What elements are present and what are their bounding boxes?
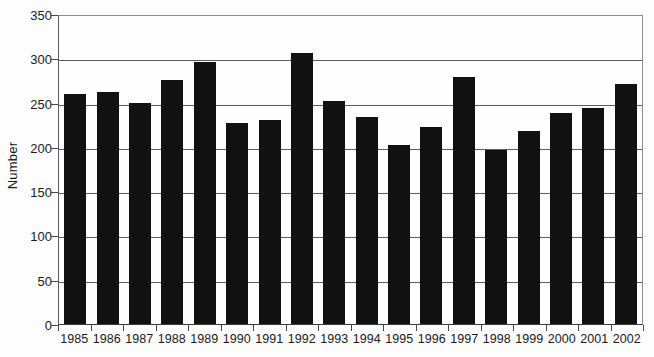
y-tick-mark xyxy=(51,236,58,237)
x-axis-tick-marks xyxy=(58,325,643,331)
x-tick-mark xyxy=(448,325,449,331)
x-tick-mark xyxy=(188,325,189,331)
bar-2000[interactable] xyxy=(550,113,572,324)
bar-1996[interactable] xyxy=(420,127,442,325)
bar-slot xyxy=(221,16,253,324)
bar-1985[interactable] xyxy=(64,94,86,324)
bar-slot xyxy=(415,16,447,324)
y-tick-mark xyxy=(51,192,58,193)
bar-slot xyxy=(545,16,577,324)
bar-1998[interactable] xyxy=(485,150,507,324)
x-tick-mark xyxy=(253,325,254,331)
x-tick-label: 2000 xyxy=(546,332,579,354)
bar-1986[interactable] xyxy=(97,92,119,324)
bar-slot xyxy=(91,16,123,324)
x-tick-mark xyxy=(383,325,384,331)
bar-slot xyxy=(383,16,415,324)
plot-area xyxy=(58,15,643,325)
x-tick-mark xyxy=(91,325,92,331)
bar-slot xyxy=(59,16,91,324)
x-tick-label: 1989 xyxy=(188,332,221,354)
bar-slot xyxy=(253,16,285,324)
bar-slot xyxy=(156,16,188,324)
bar-1991[interactable] xyxy=(259,120,281,324)
bar-slot xyxy=(286,16,318,324)
x-tick-label: 1993 xyxy=(318,332,351,354)
x-tick-mark xyxy=(156,325,157,331)
y-axis-tick-labels: 050100150200250300350 xyxy=(0,0,52,357)
bar-1999[interactable] xyxy=(518,131,540,324)
x-tick-label: 1986 xyxy=(91,332,124,354)
y-tick-mark xyxy=(51,148,58,149)
x-tick-label: 1991 xyxy=(253,332,286,354)
x-tick-mark xyxy=(351,325,352,331)
x-tick-mark xyxy=(611,325,612,331)
x-tick-mark xyxy=(481,325,482,331)
y-tick-label: 250 xyxy=(8,96,52,111)
bar-slot xyxy=(124,16,156,324)
y-tick-mark xyxy=(51,281,58,282)
y-tick-label: 350 xyxy=(8,8,52,23)
bar-1997[interactable] xyxy=(453,77,475,324)
x-tick-label: 1988 xyxy=(156,332,189,354)
x-tick-mark xyxy=(578,325,579,331)
bar-slot xyxy=(512,16,544,324)
bar-slot xyxy=(189,16,221,324)
bars-layer xyxy=(59,16,642,324)
y-tick-label: 300 xyxy=(8,52,52,67)
x-tick-mark xyxy=(643,325,644,331)
x-tick-mark xyxy=(318,325,319,331)
y-tick-mark xyxy=(51,59,58,60)
bar-slot xyxy=(448,16,480,324)
x-tick-label: 1995 xyxy=(383,332,416,354)
bar-chart: Number 050100150200250300350 19851986198… xyxy=(0,0,654,357)
bar-1988[interactable] xyxy=(161,80,183,324)
x-tick-label: 1996 xyxy=(416,332,449,354)
y-tick-mark xyxy=(51,325,58,326)
bar-slot xyxy=(577,16,609,324)
x-tick-mark xyxy=(123,325,124,331)
y-tick-mark xyxy=(51,104,58,105)
x-tick-label: 1998 xyxy=(481,332,514,354)
y-tick-mark xyxy=(51,15,58,16)
bar-1990[interactable] xyxy=(226,123,248,324)
x-tick-mark xyxy=(416,325,417,331)
bar-slot xyxy=(351,16,383,324)
bar-2001[interactable] xyxy=(582,108,604,324)
y-tick-label: 50 xyxy=(8,273,52,288)
bar-1992[interactable] xyxy=(291,53,313,324)
x-tick-mark xyxy=(546,325,547,331)
x-tick-label: 1990 xyxy=(221,332,254,354)
x-tick-label: 2001 xyxy=(578,332,611,354)
bar-slot xyxy=(610,16,642,324)
x-tick-label: 2002 xyxy=(611,332,644,354)
x-tick-label: 1987 xyxy=(123,332,156,354)
bar-1994[interactable] xyxy=(356,117,378,324)
y-tick-label: 100 xyxy=(8,229,52,244)
bar-1989[interactable] xyxy=(194,62,216,324)
x-axis-tick-labels: 1985198619871988198919901991199219931994… xyxy=(58,332,643,354)
bar-2002[interactable] xyxy=(615,84,637,324)
x-tick-mark xyxy=(221,325,222,331)
bar-1993[interactable] xyxy=(323,101,345,324)
bar-1987[interactable] xyxy=(129,103,151,324)
y-tick-label: 0 xyxy=(8,318,52,333)
x-tick-mark xyxy=(286,325,287,331)
x-tick-mark xyxy=(513,325,514,331)
x-tick-label: 1999 xyxy=(513,332,546,354)
x-tick-mark xyxy=(58,325,59,331)
bar-slot xyxy=(318,16,350,324)
x-tick-label: 1997 xyxy=(448,332,481,354)
bar-1995[interactable] xyxy=(388,145,410,324)
x-tick-label: 1985 xyxy=(58,332,91,354)
y-tick-label: 150 xyxy=(8,185,52,200)
bar-slot xyxy=(480,16,512,324)
x-tick-label: 1994 xyxy=(351,332,384,354)
y-tick-label: 200 xyxy=(8,140,52,155)
x-tick-label: 1992 xyxy=(286,332,319,354)
